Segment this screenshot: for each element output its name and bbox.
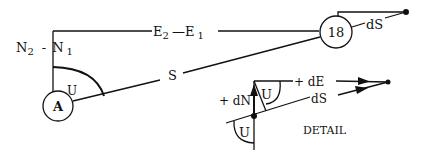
detail-angle-upper-label: U bbox=[261, 87, 272, 102]
station-18-label: 18 bbox=[328, 25, 345, 40]
ds-label: dS bbox=[366, 17, 383, 32]
angle-label: U bbox=[67, 84, 77, 98]
converge-point-dot bbox=[386, 80, 391, 85]
detail-origin-dot bbox=[251, 113, 257, 119]
ds-line-right bbox=[385, 12, 406, 18]
station-18-node: 18 bbox=[320, 16, 352, 48]
distance-line-lower bbox=[73, 80, 160, 101]
distance-line-upper bbox=[183, 37, 320, 73]
easting-diff-label: E2—E1 bbox=[153, 24, 204, 41]
dn-arrow-head-icon bbox=[250, 84, 258, 96]
station-a-label: A bbox=[52, 99, 64, 114]
northing-diff-label: N2-N1 bbox=[16, 40, 73, 57]
ds-line-left bbox=[352, 23, 365, 27]
converging-arrows bbox=[336, 77, 391, 95]
detail-angle-lower-label: U bbox=[239, 125, 250, 140]
detail-ds-label: dS bbox=[311, 92, 327, 106]
detail-dn-label: + dN bbox=[219, 94, 251, 108]
upper-arrow-head-icon bbox=[358, 77, 370, 85]
endpoint-dot bbox=[403, 9, 409, 15]
svg-text:E2—E1: E2—E1 bbox=[153, 24, 204, 41]
detail-figure: U U + dE + dN dS DETAIL bbox=[219, 75, 347, 150]
detail-de-label: + dE bbox=[294, 75, 324, 89]
detail-title: DETAIL bbox=[303, 124, 347, 137]
traverse-diagram: A 18 E2—E1 N2-N1 S U dS bbox=[0, 0, 424, 157]
distance-label: S bbox=[168, 68, 177, 83]
svg-text:N2-N1: N2-N1 bbox=[16, 40, 73, 57]
